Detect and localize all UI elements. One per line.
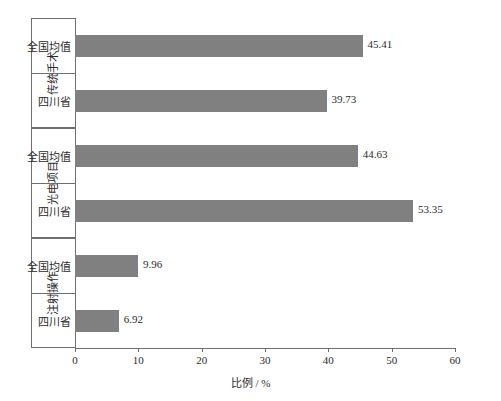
bar (75, 255, 138, 277)
subcategory-label: 全国均值 (11, 148, 71, 164)
bar-value-label: 44.63 (363, 148, 388, 160)
bar-value-label: 9.96 (143, 258, 162, 270)
bar (75, 145, 358, 167)
bar-value-label: 39.73 (332, 93, 357, 105)
bar-value-label: 53.35 (418, 203, 443, 215)
x-tick-label: 10 (118, 354, 158, 366)
subcategory-divider (31, 183, 75, 184)
subcategory-divider (31, 73, 75, 74)
x-axis-title: 比例 / % (0, 374, 501, 390)
bar-value-label: 6.92 (124, 313, 143, 325)
subcategory-label: 全国均值 (11, 38, 71, 54)
x-tick-mark (138, 348, 139, 352)
x-tick-mark (328, 348, 329, 352)
subcategory-label: 四川省 (11, 93, 71, 109)
x-tick-label: 0 (55, 354, 95, 366)
plot-area: 45.4139.7344.6353.359.966.92 (75, 18, 455, 348)
bar (75, 310, 119, 332)
subcategory-label: 四川省 (11, 203, 71, 219)
x-tick-mark (455, 348, 456, 352)
x-tick-mark (202, 348, 203, 352)
x-tick-label: 50 (372, 354, 412, 366)
x-tick-mark (392, 348, 393, 352)
x-tick-label: 40 (308, 354, 348, 366)
group-category-axis: 传统手术光电项目注射操作 (31, 18, 75, 348)
subcategory-divider (31, 293, 75, 294)
bar (75, 35, 363, 57)
x-tick-mark (75, 348, 76, 352)
bar (75, 90, 327, 112)
x-tick-label: 30 (245, 354, 285, 366)
bar (75, 200, 413, 222)
x-tick-mark (265, 348, 266, 352)
bar-chart: 传统手术光电项目注射操作 45.4139.7344.6353.359.966.9… (0, 0, 501, 401)
bar-value-label: 45.41 (368, 38, 393, 50)
subcategory-label: 四川省 (11, 313, 71, 329)
x-tick-label: 20 (182, 354, 222, 366)
x-tick-label: 60 (435, 354, 475, 366)
subcategory-label: 全国均值 (11, 258, 71, 274)
